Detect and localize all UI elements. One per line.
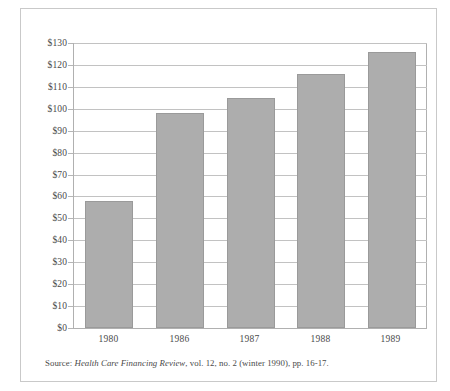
bar-1986[interactable] — [156, 113, 204, 328]
plot-right-border — [426, 43, 427, 328]
y-axis-tick-label: $110 — [21, 83, 67, 93]
y-axis-tick-label: $50 — [21, 214, 67, 224]
y-axis-tick-label: $70 — [21, 171, 67, 181]
y-axis-tick-label: $60 — [21, 192, 67, 202]
figure-frame: $130$120$110$100$90$80$70$60$50$40$30$20… — [20, 8, 437, 382]
x-axis: 19801986198719881989 — [73, 334, 426, 350]
bar-1989[interactable] — [368, 52, 416, 328]
y-axis-tick-label: $30 — [21, 258, 67, 268]
x-axis-tick-label: 1987 — [214, 334, 285, 345]
y-axis-tick-label: $0 — [21, 324, 67, 334]
source-journal-title: Health Care Financing Review — [74, 358, 185, 368]
y-axis-tick-label: $130 — [21, 39, 67, 49]
y-axis-tick-label: $10 — [21, 302, 67, 312]
x-axis-tick-label: 1986 — [144, 334, 215, 345]
x-axis-tick-label: 1988 — [285, 334, 356, 345]
plot-area — [73, 43, 427, 329]
bar-1987[interactable] — [227, 98, 275, 328]
bar-1988[interactable] — [297, 74, 345, 328]
y-axis: $130$120$110$100$90$80$70$60$50$40$30$20… — [21, 43, 67, 328]
y-axis-tick-label: $20 — [21, 280, 67, 290]
source-citation-details: , vol. 12, no. 2 (winter 1990), pp. 16-1… — [185, 358, 329, 368]
source-note: Source: Health Care Financing Review, vo… — [45, 358, 425, 369]
y-axis-tick-label: $80 — [21, 149, 67, 159]
y-axis-tick-label: $40 — [21, 236, 67, 246]
bar-1980[interactable] — [85, 201, 133, 328]
y-axis-tick-label: $120 — [21, 61, 67, 71]
x-axis-tick-label: 1989 — [355, 334, 426, 345]
gridline — [74, 43, 427, 44]
source-prefix: Source: — [45, 358, 74, 368]
y-axis-tick-label: $90 — [21, 127, 67, 137]
y-axis-tick-label: $100 — [21, 105, 67, 115]
x-axis-tick-label: 1980 — [73, 334, 144, 345]
bar-chart: $130$120$110$100$90$80$70$60$50$40$30$20… — [21, 9, 438, 349]
